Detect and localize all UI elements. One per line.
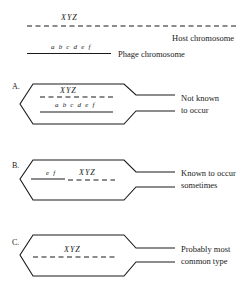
panel-c-caption-2: common type	[181, 256, 228, 266]
phage-head-outline-c	[20, 235, 175, 276]
panel-c: C. XYZ Probably most common type	[12, 235, 231, 276]
panel-c-host-genes: XYZ	[63, 245, 81, 254]
phage-head-outline-a	[20, 84, 175, 124]
panel-a-phage-genes: a b c d e f	[55, 101, 96, 109]
panel-a: A. XYZ a b c d e f Not known to occur	[12, 82, 220, 124]
panel-b: B. e f XYZ Known to occur sometimes	[12, 160, 236, 200]
host-chromosome-label: Host chromosome	[172, 33, 234, 43]
panel-b-phage-genes: e f	[46, 169, 56, 177]
panel-b-letter: B.	[12, 161, 19, 170]
panel-a-letter: A.	[12, 82, 20, 91]
legend: XYZ Host chromosome a b c d e f Phage ch…	[27, 13, 238, 59]
panel-a-host-genes: XYZ	[59, 86, 77, 95]
panel-a-caption-1: Not known	[181, 93, 220, 103]
host-genes-label: XYZ	[60, 13, 78, 22]
panel-b-caption-2: sometimes	[181, 180, 217, 190]
panel-b-caption-1: Known to occur	[181, 168, 236, 178]
transduction-diagram: XYZ Host chromosome a b c d e f Phage ch…	[0, 0, 246, 285]
panel-c-letter: C.	[12, 238, 19, 247]
panel-c-caption-1: Probably most	[181, 244, 231, 254]
phage-chromosome-label: Phage chromosome	[118, 49, 185, 59]
panel-a-caption-2: to occur	[181, 105, 209, 115]
panel-b-host-genes: XYZ	[78, 168, 96, 177]
phage-genes-label: a b c d e f	[51, 43, 92, 51]
